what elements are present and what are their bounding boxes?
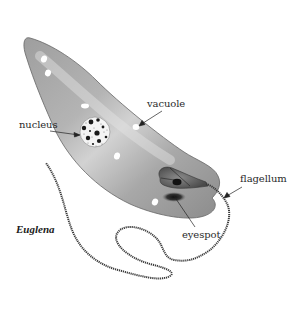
granule xyxy=(81,104,89,109)
euglena-diagram: nucleus vacuole flagellum eyespot Euglen… xyxy=(0,0,293,326)
vacuole xyxy=(133,124,140,130)
nucleus xyxy=(80,117,110,147)
vacuole-label: vacuole xyxy=(147,98,185,109)
eyespot xyxy=(162,192,186,202)
eyespot-label: eyespot xyxy=(182,229,220,240)
euglena-illustration xyxy=(0,0,293,326)
nucleus-label: nucleus xyxy=(19,119,57,130)
figure-title: Euglena xyxy=(16,223,55,235)
flagellum-label: flagellum xyxy=(240,173,287,184)
